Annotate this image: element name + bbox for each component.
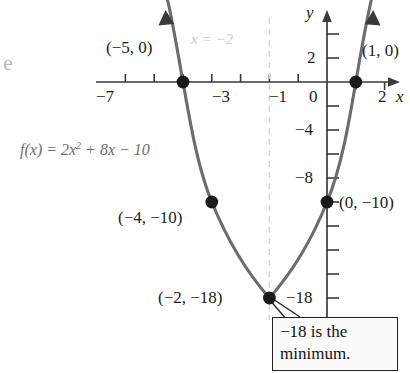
- x-tick-label-0: 0: [309, 88, 318, 105]
- point-root-right: [349, 76, 362, 89]
- callout-line-2: minimum.: [280, 343, 391, 365]
- y-tick-label--18: −18: [286, 289, 313, 306]
- parabola-figure: e x y −7 −3 −1 0 2 2 −4 −8 −18 (−5, 0) (…: [0, 0, 410, 373]
- y-axis: [322, 10, 332, 352]
- x-tick-label--3: −3: [212, 88, 230, 105]
- x-axis-name: x: [396, 88, 404, 105]
- y-axis-ticks: [327, 34, 339, 298]
- y-tick-label-2: 2: [307, 49, 316, 66]
- axis-of-symmetry-label: x = −2: [191, 32, 233, 47]
- label-root-right: (1, 0): [362, 42, 399, 59]
- edge-fragment-glyph: e: [3, 52, 13, 74]
- function-equation-lhs: f(x) = 2x: [20, 141, 76, 158]
- x-tick-label--7: −7: [96, 88, 114, 105]
- x-tick-label-2: 2: [378, 88, 387, 105]
- point-y-intercept: [321, 196, 334, 209]
- label-vertex: (−2, −18): [158, 289, 223, 306]
- callout-line-1: −18 is the: [280, 321, 391, 343]
- function-equation-rhs: + 8x − 10: [81, 141, 150, 158]
- x-tick-label--1: −1: [269, 88, 287, 105]
- y-tick-label--8: −8: [295, 169, 313, 186]
- minimum-callout-box: −18 is the minimum.: [272, 317, 398, 371]
- point-root-left: [177, 76, 190, 89]
- y-tick-label--4: −4: [295, 121, 313, 138]
- function-equation-label: f(x) = 2x2 + 8x − 10: [20, 142, 150, 158]
- point-pt-neg4: [205, 196, 218, 209]
- y-axis-name: y: [306, 4, 314, 21]
- label-pt-neg4: (−4, −10): [118, 209, 183, 226]
- label-root-left: (−5, 0): [106, 39, 152, 56]
- label-y-intercept: (0, −10): [339, 194, 394, 211]
- point-vertex: [263, 292, 276, 305]
